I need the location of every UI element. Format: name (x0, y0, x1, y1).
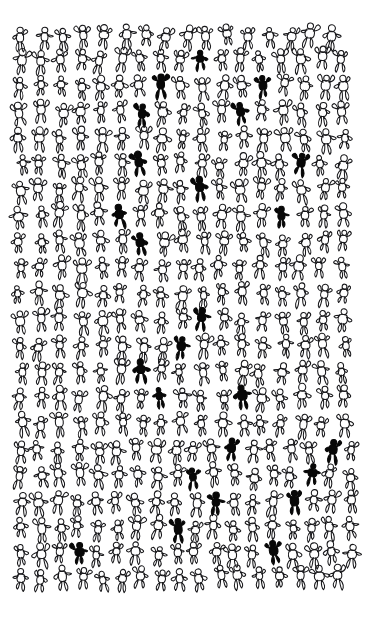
figure-torso (196, 55, 204, 62)
figure-head (77, 542, 83, 548)
figure-head (278, 206, 284, 212)
figure-head (213, 492, 220, 499)
artboard: Crowd of hand-drawn human figures outlin… (0, 0, 384, 629)
crowd-figure-field (0, 0, 384, 629)
figure-head (137, 359, 143, 366)
figure-head (259, 75, 264, 81)
crowd-pictogram-svg (0, 0, 384, 629)
figure-torso (237, 390, 248, 401)
figure-torso (195, 182, 204, 191)
